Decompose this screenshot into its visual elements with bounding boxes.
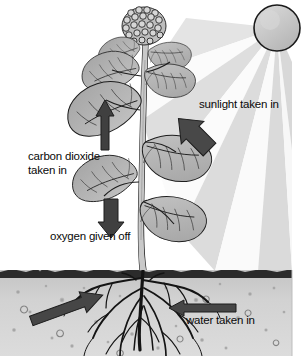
photosynthesis-diagram: sunlight taken in carbon dioxidetaken in… — [0, 0, 307, 356]
water-label: water taken in — [186, 314, 255, 328]
sunlight-label: sunlight taken in — [199, 98, 279, 112]
sun-icon — [254, 5, 300, 51]
carbon-dioxide-label-line1: carbon dioxide — [28, 150, 100, 162]
oxygen-label: oxygen given off — [50, 230, 130, 244]
carbon-dioxide-label: carbon dioxidetaken in — [28, 150, 100, 177]
diagram-canvas — [0, 0, 307, 356]
carbon-dioxide-label-line2: taken in — [28, 164, 67, 176]
